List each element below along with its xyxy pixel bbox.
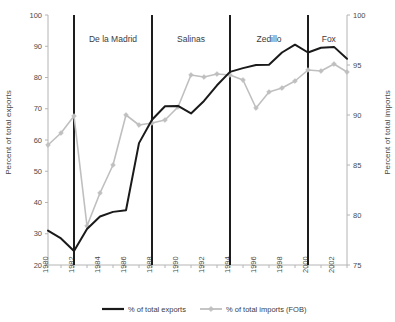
right-axis: 7580859095100	[347, 11, 366, 270]
x-axis: 1980198219841986198819901992199419961998…	[41, 256, 347, 273]
y-tick-label-right: 95	[353, 61, 361, 70]
chart-legend: % of total exports% of total imports (FO…	[102, 305, 307, 314]
y-tick-label-left: 80	[34, 73, 42, 82]
y-tick-label-left: 90	[34, 42, 42, 51]
x-tick-label: 1996	[249, 256, 258, 273]
y-tick-label-left: 100	[29, 11, 42, 20]
y-tick-label-left: 60	[34, 136, 42, 145]
period-dividers	[74, 15, 308, 265]
series-imports	[46, 62, 350, 229]
imports-line	[48, 64, 347, 226]
x-tick-label: 1984	[93, 256, 102, 273]
x-tick-label: 1986	[119, 256, 128, 273]
legend-marker-imports	[208, 306, 213, 311]
y-tick-label-right: 80	[353, 211, 361, 220]
imports-data-point	[98, 191, 103, 196]
y-tick-label-right: 100	[353, 11, 366, 20]
legend-label-imports: % of total imports (FOB)	[226, 305, 307, 314]
imports-data-point	[111, 163, 116, 168]
period-label: Zedillo	[256, 34, 281, 44]
x-tick-label: 1998	[275, 256, 284, 273]
y-tick-label-left: 30	[34, 229, 42, 238]
imports-data-point	[241, 78, 246, 83]
x-tick-label: 2002	[327, 256, 336, 273]
y-tick-label-right: 90	[353, 111, 361, 120]
x-tick-label: 1992	[197, 256, 206, 273]
y-tick-label-left: 40	[34, 198, 42, 207]
y-tick-label-right: 85	[353, 161, 361, 170]
left-axis: 2030405060708090100	[29, 11, 48, 270]
y-tick-label-left: 70	[34, 104, 42, 113]
period-label: Salinas	[177, 34, 205, 44]
x-tick-label: 1990	[171, 256, 180, 273]
imports-data-point	[202, 75, 207, 80]
period-label: Fox	[322, 34, 337, 44]
chart-plot-area: 2030405060708090100 7580859095100 198019…	[0, 0, 395, 322]
period-labels: De la MadridSalinasZedilloFox	[89, 34, 337, 44]
y-tick-label-right: 75	[353, 261, 361, 270]
chart-figure: Percent of total exports Percent of tota…	[0, 0, 395, 322]
period-label: De la Madrid	[89, 34, 137, 44]
x-tick-label: 1980	[41, 256, 50, 273]
y-tick-label-left: 50	[34, 167, 42, 176]
legend-label-exports: % of total exports	[128, 305, 186, 314]
imports-data-point	[189, 73, 194, 78]
imports-data-point	[215, 72, 220, 77]
